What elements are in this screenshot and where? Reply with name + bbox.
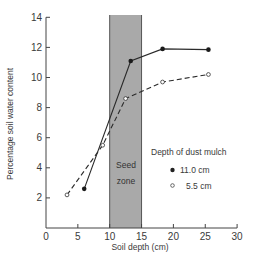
y-tick-label: 2 xyxy=(36,192,42,203)
y-tick-label: 6 xyxy=(36,132,42,143)
y-tick-label: 4 xyxy=(36,162,42,173)
y-axis-title: Percentage soil water content xyxy=(5,67,15,180)
x-tick-label: 25 xyxy=(200,231,212,242)
x-tick-label: 10 xyxy=(104,231,116,242)
seed-zone-label-line2: zone xyxy=(117,176,136,186)
seed-zone-rect xyxy=(110,15,142,228)
data-point-filled xyxy=(128,59,133,64)
x-tick-label: 20 xyxy=(168,231,180,242)
data-point-filled xyxy=(206,47,211,52)
seed-zone-label-line1: Seed xyxy=(116,160,136,170)
y-tick-label: 12 xyxy=(31,42,43,53)
x-tick-label: 30 xyxy=(232,231,244,242)
data-point-open xyxy=(161,80,165,84)
data-point-open xyxy=(207,73,211,77)
seed-zone-band xyxy=(110,15,142,228)
y-tick-label: 14 xyxy=(31,12,43,23)
x-tick-label: 15 xyxy=(136,231,148,242)
y-tick-label: 8 xyxy=(36,102,42,113)
data-point-filled xyxy=(82,187,87,192)
y-tick-label: 10 xyxy=(31,72,43,83)
legend-open-marker-icon xyxy=(171,184,175,188)
legend-title: Depth of dust mulch xyxy=(151,147,227,157)
data-point-open xyxy=(65,193,69,197)
data-point-open xyxy=(124,97,128,101)
x-axis-title: Soil depth (cm) xyxy=(111,242,168,252)
x-tick-label: 0 xyxy=(43,231,49,242)
soil-water-chart: 2468101214051015202530 Seed zone Depth o… xyxy=(0,0,255,262)
x-tick-label: 5 xyxy=(75,231,81,242)
data-point-open xyxy=(101,143,105,147)
legend-filled-marker-icon xyxy=(170,168,174,172)
legend-item-11cm: 11.0 cm xyxy=(180,165,210,175)
legend-item-5-5cm: 5.5 cm xyxy=(186,181,212,191)
data-point-filled xyxy=(160,47,165,52)
